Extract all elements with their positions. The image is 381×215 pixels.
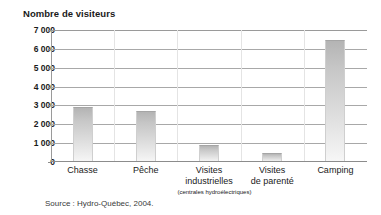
gridline — [51, 143, 367, 144]
bar — [73, 107, 93, 162]
x-label-line-2: industrielles — [177, 176, 240, 187]
category-separator — [241, 30, 242, 162]
y-tick-mark — [48, 49, 51, 50]
bar — [325, 40, 345, 162]
chart-title: Nombre de visiteurs — [23, 8, 115, 19]
bar — [199, 145, 219, 162]
y-tick-mark — [48, 87, 51, 88]
gridline — [51, 105, 367, 106]
x-category-label: Pêche — [114, 165, 177, 176]
x-label-line-2: de parenté — [241, 176, 304, 187]
x-label-line-1: Visites — [177, 165, 240, 176]
category-separator — [304, 30, 305, 162]
y-tick-mark — [48, 143, 51, 144]
gridline — [51, 124, 367, 125]
x-category-label: Visitesindustrielles(centrales hydroélec… — [177, 165, 240, 196]
x-label-line-1: Chasse — [51, 165, 114, 176]
x-axis-line — [51, 161, 367, 162]
gridline — [51, 87, 367, 88]
x-category-label: Chasse — [51, 165, 114, 176]
x-category-label: Visitesde parenté — [241, 165, 304, 187]
x-label-line-1: Visites — [241, 165, 304, 176]
y-tick-mark — [48, 124, 51, 125]
y-tick-mark — [48, 105, 51, 106]
x-label-line-1: Camping — [304, 165, 367, 176]
gridline — [51, 49, 367, 50]
x-label-line-1: Pêche — [114, 165, 177, 176]
x-category-label: Camping — [304, 165, 367, 176]
category-separator — [114, 30, 115, 162]
bar-chart-figure: Nombre de visiteurs 01 0002 0003 0004 00… — [0, 0, 381, 215]
plot-area — [51, 30, 367, 162]
y-tick-mark — [48, 68, 51, 69]
x-label-sublabel: (centrales hydroélectriques) — [177, 188, 240, 196]
bar — [136, 111, 156, 162]
y-tick-mark — [48, 30, 51, 31]
source-note: Source : Hydro-Québec, 2004. — [45, 199, 154, 208]
gridline — [51, 68, 367, 69]
y-tick-mark — [48, 162, 51, 163]
category-separator — [177, 30, 178, 162]
